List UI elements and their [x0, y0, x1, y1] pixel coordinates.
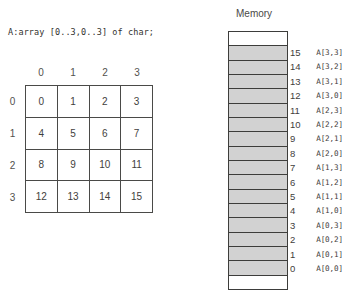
memory-cell [229, 132, 287, 146]
matrix-row: 4567 [26, 118, 152, 150]
array-matrix-diagram: 0123 0123 0123456789101112131415 [0, 63, 190, 223]
matrix-cell: 0 [26, 86, 58, 117]
memory-label-row: 0A[0,0] [290, 261, 343, 275]
array-declaration-text: A:array [0..3,0..3] of char; [8, 27, 154, 37]
matrix-grid: 0123456789101112131415 [25, 85, 153, 213]
memory-cell [229, 204, 287, 218]
memory-element-name: A[0,3] [307, 221, 343, 230]
matrix-col-header: 3 [121, 63, 153, 83]
matrix-cell: 15 [121, 181, 152, 212]
memory-label-row: 5A[1,1] [290, 189, 343, 203]
memory-element-name: A[2,2] [307, 120, 343, 129]
matrix-cell: 14 [90, 181, 122, 212]
matrix-cell: 6 [90, 118, 122, 149]
memory-element-name: A[0,2] [307, 235, 343, 244]
memory-element-name: A[3,2] [307, 62, 343, 71]
memory-cell [229, 175, 287, 189]
memory-address-index: 14 [290, 61, 307, 72]
memory-label-row: 8A[2,0] [290, 146, 343, 160]
matrix-cell: 10 [90, 150, 122, 181]
memory-address-index: 15 [290, 47, 307, 58]
memory-address-index: 2 [290, 234, 307, 245]
memory-label-row: 3A[0,3] [290, 218, 343, 232]
memory-address-index: 1 [290, 249, 307, 260]
matrix-cell: 9 [58, 150, 90, 181]
memory-address-index: 11 [290, 105, 307, 116]
memory-element-name: A[1,1] [307, 192, 343, 201]
matrix-cell: 5 [58, 118, 90, 149]
memory-cell [229, 75, 287, 89]
memory-address-index: 6 [290, 177, 307, 188]
memory-label-row: 10A[2,2] [290, 117, 343, 131]
memory-label-row: 2A[0,2] [290, 232, 343, 246]
memory-address-index: 5 [290, 191, 307, 202]
memory-element-name: A[1,0] [307, 206, 343, 215]
matrix-cell: 3 [121, 86, 152, 117]
memory-cell [229, 89, 287, 103]
matrix-row: 891011 [26, 150, 152, 182]
memory-cell [229, 190, 287, 204]
memory-cell [229, 233, 287, 247]
matrix-cell: 7 [121, 118, 152, 149]
matrix-row: 12131415 [26, 181, 152, 212]
memory-label-row: 15A[3,3] [290, 45, 343, 59]
memory-label-row: 6A[1,2] [290, 175, 343, 189]
memory-cell [229, 261, 287, 275]
memory-cell [229, 218, 287, 232]
memory-cell-empty [229, 276, 287, 289]
memory-cell [229, 104, 287, 118]
memory-cell [229, 147, 287, 161]
matrix-col-header: 2 [89, 63, 121, 83]
memory-address-index: 4 [290, 205, 307, 216]
matrix-cell: 12 [26, 181, 58, 212]
matrix-cell: 2 [90, 86, 122, 117]
memory-element-name: A[1,2] [307, 178, 343, 187]
matrix-row: 0123 [26, 86, 152, 118]
memory-label-row: 1A[0,1] [290, 247, 343, 261]
matrix-cell: 8 [26, 150, 58, 181]
memory-element-name: A[3,3] [307, 48, 343, 57]
memory-cell [229, 46, 287, 60]
memory-label-row: 12A[3,0] [290, 89, 343, 103]
memory-address-index: 7 [290, 162, 307, 173]
memory-cell-column [228, 31, 288, 290]
memory-address-index: 8 [290, 148, 307, 159]
matrix-row-headers: 0123 [0, 85, 25, 213]
matrix-row-header: 1 [0, 117, 25, 149]
memory-label-row: 13A[3,1] [290, 74, 343, 88]
memory-address-index: 9 [290, 133, 307, 144]
matrix-cell: 13 [58, 181, 90, 212]
memory-address-index: 3 [290, 220, 307, 231]
memory-element-name: A[0,0] [307, 264, 343, 273]
memory-address-index: 10 [290, 119, 307, 130]
matrix-row-header: 3 [0, 181, 25, 213]
memory-label-row: 11A[2,3] [290, 103, 343, 117]
memory-element-name: A[1,3] [307, 163, 343, 172]
matrix-col-header: 1 [57, 63, 89, 83]
memory-element-name: A[2,3] [307, 106, 343, 115]
memory-label-row: 14A[3,2] [290, 60, 343, 74]
memory-cell-empty [229, 32, 287, 46]
memory-address-index: 0 [290, 263, 307, 274]
matrix-row-header: 2 [0, 149, 25, 181]
memory-cell [229, 118, 287, 132]
memory-cell [229, 161, 287, 175]
memory-element-name: A[3,0] [307, 91, 343, 100]
memory-element-name: A[2,1] [307, 134, 343, 143]
memory-element-name: A[3,1] [307, 77, 343, 86]
memory-title: Memory [236, 8, 272, 19]
matrix-cell: 11 [121, 150, 152, 181]
memory-cell [229, 61, 287, 75]
memory-element-name: A[0,1] [307, 250, 343, 259]
memory-label-row: 9A[2,1] [290, 132, 343, 146]
matrix-cell: 1 [58, 86, 90, 117]
memory-label-column: 15A[3,3]14A[3,2]13A[3,1]12A[3,0]11A[2,3]… [290, 31, 343, 290]
matrix-row-header: 0 [0, 85, 25, 117]
memory-address-index: 12 [290, 90, 307, 101]
memory-label-row: 7A[1,3] [290, 161, 343, 175]
memory-element-name: A[2,0] [307, 149, 343, 158]
memory-address-index: 13 [290, 76, 307, 87]
matrix-col-header: 0 [25, 63, 57, 83]
matrix-cell: 4 [26, 118, 58, 149]
memory-label-row: 4A[1,0] [290, 204, 343, 218]
